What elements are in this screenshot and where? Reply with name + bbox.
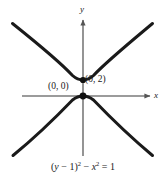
equation-equals-one: = 1 [99, 161, 115, 172]
x-axis-label: x [154, 91, 158, 100]
y-axis-label: y [80, 5, 84, 14]
hyperbola-figure: y x (0, 0) (0, 2) (y − 1)2 − x2 = 1 [0, 0, 166, 190]
point-origin [80, 93, 87, 100]
point-label-origin: (0, 0) [48, 82, 69, 92]
equation-minus-operator: − [81, 161, 92, 172]
equation-caption: (y − 1)2 − x2 = 1 [0, 162, 166, 172]
equation-minus-one: − 1 [59, 161, 75, 172]
point-label-upper-vertex: (0, 2) [85, 75, 106, 85]
